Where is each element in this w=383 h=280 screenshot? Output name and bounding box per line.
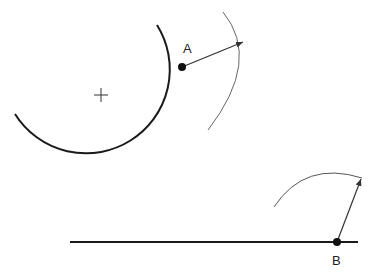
arc-b [274, 173, 362, 207]
label-b: B [332, 253, 341, 268]
outer-arc-a [208, 12, 239, 130]
label-a: A [183, 41, 192, 56]
point-b [333, 238, 341, 246]
main-circle-arc [15, 25, 170, 153]
arrow-b [337, 179, 361, 242]
center-mark-icon [94, 88, 108, 102]
diagram-canvas: A B [0, 0, 383, 280]
point-a [178, 63, 186, 71]
